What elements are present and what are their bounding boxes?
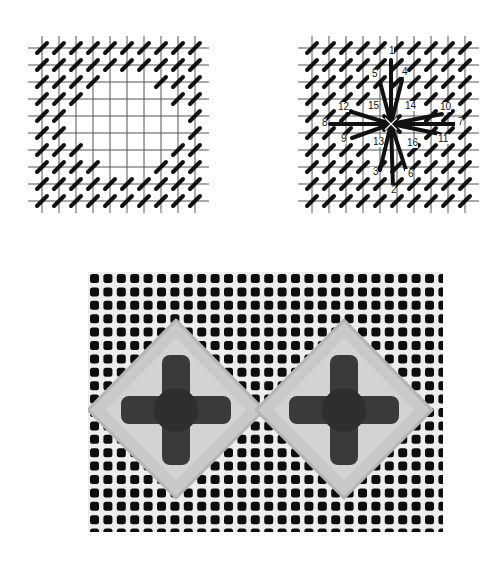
needle-position-label: 13 [373,136,385,147]
needle-position-label: 8 [322,117,328,128]
needle-position-label: 5 [372,68,378,79]
stitched-canvas-photo [88,272,443,532]
needle-position-label: 4 [402,66,408,77]
needle-position-label: 15 [368,100,380,111]
star-stitch-numbered-diagram: 12345678910111213141516 [294,30,494,220]
needle-position-label: 10 [440,101,452,112]
needle-position-label: 12 [338,101,350,112]
tent-stitch-open-square-diagram [24,30,224,220]
needle-position-label: 16 [407,137,419,148]
needle-position-label: 11 [438,133,449,144]
grid-diagram-right: 12345678910111213141516 [294,30,494,220]
needle-position-label: 2 [391,184,397,195]
needle-position-label: 14 [405,100,417,111]
needle-position-label: 3 [373,166,379,177]
needle-position-label: 7 [458,116,464,127]
grid-diagram-left [24,30,224,220]
needle-position-label: 1 [389,45,395,56]
canvas-photo-image [88,272,443,532]
tent-stitches [37,43,200,206]
needle-position-label: 9 [341,133,347,144]
needle-position-label: 6 [408,168,414,179]
